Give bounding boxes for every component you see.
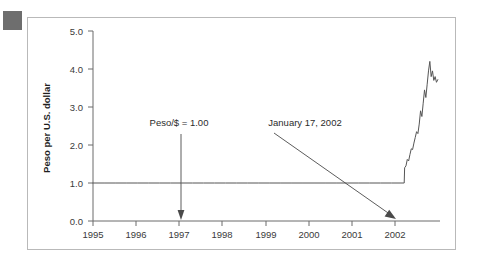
y-axis-ticks: [88, 31, 93, 221]
x-tick-label-2002: 2002: [384, 229, 405, 240]
x-tick-label-1999: 1999: [255, 229, 276, 240]
peg-annotation-arrow-head: [178, 210, 185, 220]
y-axis-title: Peso per U.S. dollar: [41, 83, 52, 173]
x-tick-label-2001: 2001: [341, 229, 362, 240]
exchange-rate-line-chart: 5.0 4.0 3.0 2.0 1.0 0.0 Peso per U.S. do…: [28, 18, 455, 249]
x-tick-label-1996: 1996: [125, 229, 146, 240]
peg-annotation: Peso/$ = 1.00: [150, 117, 209, 220]
y-tick-label-0: 0.0: [70, 216, 83, 227]
x-tick-label-1995: 1995: [82, 229, 103, 240]
y-tick-label-1: 1.0: [70, 178, 83, 189]
devaluation-annotation: January 17, 2002: [268, 117, 396, 219]
corner-marker-swatch: [3, 11, 22, 30]
x-tick-label-2000: 2000: [298, 229, 319, 240]
devaluation-annotation-arrow-line: [274, 133, 391, 215]
y-tick-label-2: 2.0: [70, 140, 83, 151]
peg-annotation-label: Peso/$ = 1.00: [150, 117, 209, 128]
figure-root: 5.0 4.0 3.0 2.0 1.0 0.0 Peso per U.S. do…: [0, 0, 484, 268]
y-tick-label-5: 5.0: [70, 26, 83, 37]
devaluation-annotation-label: January 17, 2002: [268, 117, 341, 128]
y-tick-label-3: 3.0: [70, 102, 83, 113]
x-tick-label-1998: 1998: [211, 229, 232, 240]
x-tick-label-1997: 1997: [168, 229, 189, 240]
chart-frame: 5.0 4.0 3.0 2.0 1.0 0.0 Peso per U.S. do…: [27, 17, 456, 250]
x-axis-ticks: [93, 221, 395, 226]
y-tick-label-4: 4.0: [70, 64, 83, 75]
exchange-rate-series-line: [93, 61, 438, 183]
